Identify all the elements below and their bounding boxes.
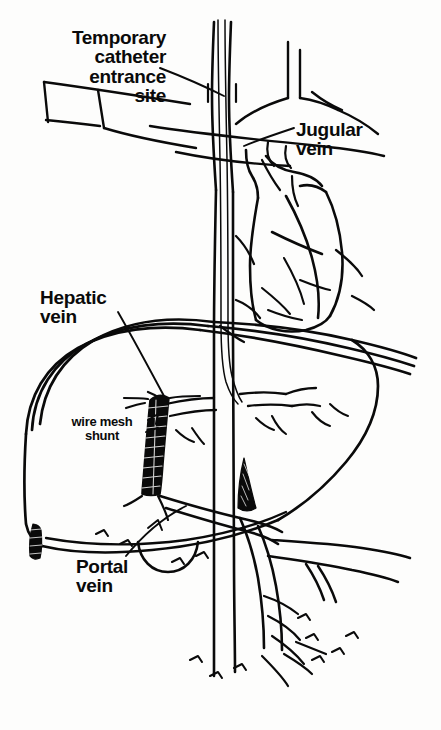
cava-heart-junction xyxy=(220,236,260,342)
portal-confluence-shading xyxy=(238,458,256,511)
anatomy-drawing xyxy=(0,0,441,730)
wire-mesh-shunt-stent xyxy=(142,396,169,496)
label-portal-vein: Portal vein xyxy=(76,557,128,596)
label-temporary-catheter-entrance-site: Temporary catheter entrance site xyxy=(48,28,166,106)
medical-illustration: Temporary catheter entrance site Jugular… xyxy=(0,0,441,730)
heart-outline xyxy=(246,150,343,332)
splenic-vein xyxy=(268,540,410,602)
label-hepatic-vein: Hepatic vein xyxy=(40,288,107,327)
vena-cava xyxy=(214,190,235,676)
jugular-vein-group xyxy=(212,22,233,192)
mesenteric-vein-branches xyxy=(262,596,326,686)
label-jugular-vein: Jugular vein xyxy=(296,120,363,159)
portal-vein xyxy=(160,496,282,650)
liver-tip-marking xyxy=(30,524,42,559)
label-wire-mesh-shunt: wire mesh shunt xyxy=(60,415,144,442)
jugular-branch-marks xyxy=(262,142,298,206)
